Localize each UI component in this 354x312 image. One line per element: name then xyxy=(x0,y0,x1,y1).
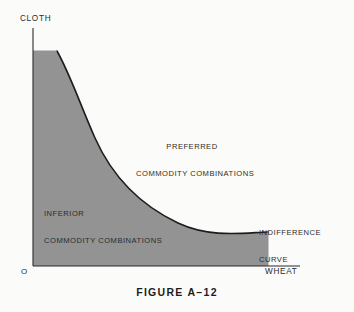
inferior-region-label-line2: COMMODITY COMBINATIONS xyxy=(44,237,162,246)
inferior-region-label: INFERIOR COMMODITY COMBINATIONS xyxy=(44,192,162,264)
origin-label: O xyxy=(21,267,28,276)
indifference-curve-label: INDIFFERENCE CURVE xyxy=(259,211,321,283)
preferred-region-label: PREFERRED COMMODITY COMBINATIONS xyxy=(136,125,248,197)
indifference-curve-label-line1: INDIFFERENCE xyxy=(259,229,321,238)
inferior-region-label-line1: INFERIOR xyxy=(44,210,162,219)
indifference-curve-figure: CLOTH WHEAT O PREFERRED COMMODITY COMBIN… xyxy=(0,0,354,312)
y-axis-title-cloth: CLOTH xyxy=(20,14,51,24)
preferred-region-label-line1: PREFERRED xyxy=(136,143,248,152)
preferred-region-label-line2: COMMODITY COMBINATIONS xyxy=(136,170,248,179)
indifference-curve-label-line2: CURVE xyxy=(259,256,321,265)
figure-caption: FIGURE A–12 xyxy=(0,286,354,298)
